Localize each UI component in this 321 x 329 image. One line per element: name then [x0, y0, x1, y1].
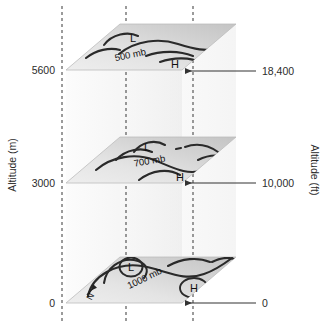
isobaric-surfaces-diagram: L H 500 mb L H 700 mb: [0, 0, 321, 329]
left-axis-title: Altitude (m): [6, 138, 18, 192]
right-axis-title: Altitude (ft): [309, 145, 321, 196]
plane-1000mb-high-label: H: [190, 282, 198, 294]
left-axis-tick-3000: 3000: [32, 177, 56, 189]
left-axis: 5600 3000 0 Altitude (m): [6, 64, 55, 309]
left-axis-tick-5600: 5600: [32, 64, 56, 76]
right-axis-tick-0: 0: [262, 297, 268, 309]
plane-700mb-high-label: H: [176, 171, 184, 183]
right-axis-tick-10000: 10,000: [262, 177, 294, 189]
plane-500mb-high-label: H: [171, 58, 179, 70]
plane-1000mb-low-label: L: [128, 261, 134, 273]
left-axis-tick-0: 0: [49, 297, 55, 309]
right-axis-tick-18400: 18,400: [262, 65, 294, 77]
figure-container: L H 500 mb L H 700 mb: [0, 0, 321, 329]
plane-700mb-low-label: L: [144, 141, 150, 153]
plane-500mb-low-label: L: [130, 32, 136, 44]
right-axis: 18,400 10,000 0 Altitude (ft): [262, 65, 321, 309]
